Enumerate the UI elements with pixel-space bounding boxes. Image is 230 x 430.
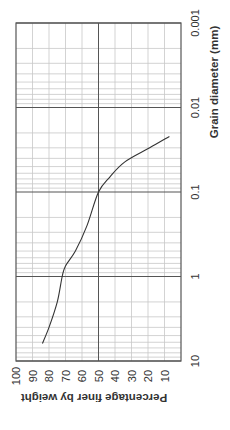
percentage-tick-label: 70 (60, 370, 72, 382)
percentage-tick-label: 30 (126, 370, 138, 382)
percentage-tick-label: 50 (93, 370, 105, 382)
percentage-tick-label: 100 (10, 367, 22, 385)
percentage-tick-labels: 100908070605040302010 (10, 367, 171, 385)
diameter-tick-label: 10 (189, 355, 201, 367)
percentage-tick-label: 80 (43, 370, 55, 382)
grain-size-chart: 0.0010.010.1110 100908070605040302010 Gr… (0, 0, 230, 430)
percentage-tick-label: 60 (76, 370, 88, 382)
diameter-axis-title: Grain diameter (mm) (208, 26, 220, 139)
percentage-axis-title: Percentage finer by weight (21, 392, 168, 404)
percentage-tick-label: 10 (159, 370, 171, 382)
diameter-tick-labels: 0.0010.010.1110 (189, 9, 201, 367)
grading-curve (42, 136, 169, 343)
percentage-tick-label: 20 (142, 370, 154, 382)
diameter-tick-label: 1 (189, 273, 201, 279)
diameter-tick-label: 0.1 (189, 184, 201, 199)
diameter-tick-label: 0.01 (189, 97, 201, 118)
percentage-tick-label: 40 (109, 370, 121, 382)
percentage-tick-label: 90 (27, 370, 39, 382)
diameter-tick-label: 0.001 (189, 9, 201, 37)
